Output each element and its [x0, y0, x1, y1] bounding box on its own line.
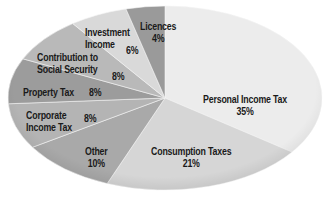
- label-pct: 35%: [203, 106, 287, 118]
- label-property-tax: Property Tax: [23, 87, 74, 99]
- label-personal-income-tax: Personal Income Tax 35%: [203, 94, 287, 118]
- label-text-line2: Social Security: [37, 64, 98, 76]
- label-text-line2: Income Tax: [26, 122, 72, 134]
- label-text-line1: Investment: [85, 27, 130, 39]
- label-pct: 21%: [151, 158, 231, 170]
- label-text-line1: Corporate: [26, 110, 72, 122]
- label-investment-income-pct: 6%: [126, 45, 138, 57]
- label-text: Licences: [140, 21, 176, 33]
- label-investment-income: Investment Income: [85, 27, 130, 51]
- label-contribution-social-security-pct: 8%: [112, 71, 124, 83]
- label-text: Consumption Taxes: [151, 146, 231, 158]
- label-text: Personal Income Tax: [203, 94, 287, 106]
- label-pct: 10%: [85, 158, 108, 170]
- label-consumption-taxes: Consumption Taxes 21%: [151, 146, 231, 170]
- label-text-line2: Income: [85, 39, 130, 51]
- label-other: Other 10%: [85, 146, 108, 170]
- label-licences: Licences 4%: [140, 21, 176, 45]
- label-property-tax-pct: 8%: [89, 87, 101, 99]
- label-text-line1: Contribution to: [37, 52, 98, 64]
- label-corporate-income-tax: Corporate Income Tax: [26, 110, 72, 134]
- label-pct: 4%: [140, 33, 176, 45]
- label-text: Other: [85, 146, 108, 158]
- label-text: Property Tax: [23, 87, 74, 98]
- label-contribution-social-security: Contribution to Social Security: [37, 52, 98, 76]
- label-corporate-income-tax-pct: 8%: [84, 113, 96, 125]
